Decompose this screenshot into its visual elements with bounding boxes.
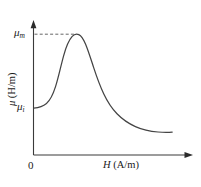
y-axis-unit: (H/m) [6,72,17,100]
y-axis-arrow-icon [31,20,37,28]
mu-max-subscript: m [20,31,25,40]
permeability-curve [34,34,172,132]
mu-initial-subscript: i [23,105,25,114]
permeability-chart: μm μi 0 H (A/m) μ (H/m) [0,0,201,187]
mu-initial-label: μi [17,101,25,113]
x-axis-arrow-icon [185,152,194,158]
x-axis-label: H (A/m) [103,160,139,171]
origin-label: 0 [28,160,34,171]
y-axis-label: μ (H/m) [7,57,18,121]
x-axis-symbol: H [103,159,111,170]
mu-max-label: μm [14,27,25,39]
x-axis-unit: (A/m) [111,159,139,170]
y-axis-symbol: μ [6,101,17,106]
